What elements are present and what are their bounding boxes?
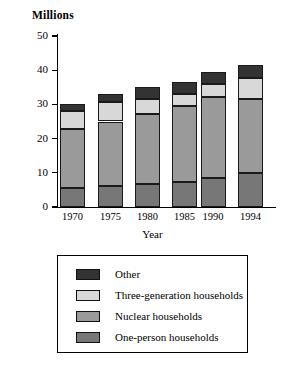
bar-segment-nuclear-households — [201, 97, 226, 178]
legend-swatch — [76, 332, 100, 343]
y-axis-tick — [52, 206, 58, 207]
bar-segment-one-person-households — [135, 184, 160, 207]
bar-1985 — [172, 36, 197, 207]
y-axis-title: Millions — [32, 9, 74, 21]
bar-segment-nuclear-households — [238, 99, 263, 173]
legend-swatch — [76, 269, 100, 280]
legend-label: Three-generation households — [115, 289, 243, 301]
bar-1990 — [201, 36, 226, 207]
y-axis-label-wrap: 30 — [0, 98, 48, 109]
y-axis-label-wrap: 0 — [0, 201, 48, 212]
bar-segment-three-generation-households — [201, 84, 226, 97]
chart-figure: Millions 01020304050 1970197519801985199… — [0, 0, 305, 368]
bar-segment-nuclear-households — [172, 106, 197, 182]
bar-segment-three-generation-households — [172, 94, 197, 106]
y-axis-label-wrap: 50 — [0, 30, 48, 41]
y-axis-tick-label: 30 — [4, 98, 48, 109]
y-axis-tick-label: 40 — [4, 64, 48, 75]
bar-segment-one-person-households — [60, 188, 85, 207]
bar-segment-one-person-households — [201, 178, 226, 207]
legend-item-three-generation-households: Three-generation households — [76, 287, 243, 303]
bar-segment-three-generation-households — [238, 78, 263, 99]
bar-1980 — [135, 36, 160, 207]
bar-segment-one-person-households — [172, 182, 197, 207]
y-axis-tick-label: 50 — [4, 30, 48, 41]
bar-segment-other — [98, 94, 123, 102]
y-axis-tick — [52, 70, 58, 71]
bar-segment-other — [201, 72, 226, 84]
legend-item-other: Other — [76, 266, 140, 282]
y-axis-tick-label: 10 — [4, 167, 48, 178]
x-axis-title: Year — [0, 228, 305, 240]
y-axis-line — [57, 34, 58, 208]
bar-segment-nuclear-households — [135, 114, 160, 184]
legend-label: Other — [115, 268, 140, 280]
bar-segment-other — [172, 82, 197, 94]
chart-legend: OtherThree-generation householdsNuclear … — [57, 255, 248, 353]
y-axis-label-wrap: 20 — [0, 133, 48, 144]
y-axis-tick — [52, 35, 58, 36]
bar-segment-other — [60, 104, 85, 110]
chart-plot-area: Millions 01020304050 1970197519801985199… — [0, 0, 305, 248]
y-axis-tick-label: 0 — [4, 201, 48, 212]
y-axis-tick — [52, 172, 58, 173]
x-axis-tick-label-1994: 1994 — [228, 211, 274, 222]
legend-label: Nuclear households — [115, 310, 202, 322]
legend-label: One-person households — [115, 331, 219, 343]
bar-1975 — [98, 36, 123, 207]
bar-segment-one-person-households — [238, 173, 263, 207]
bar-segment-other — [238, 65, 263, 78]
bar-segment-nuclear-households — [60, 129, 85, 188]
y-axis-label-wrap: 40 — [0, 64, 48, 75]
y-axis-tick — [52, 138, 58, 139]
bar-segment-other — [135, 87, 160, 99]
bar-segment-three-generation-households — [98, 102, 123, 121]
y-axis-label-wrap: 10 — [0, 167, 48, 178]
bar-segment-one-person-households — [98, 186, 123, 207]
bar-segment-nuclear-households — [98, 122, 123, 187]
legend-swatch — [76, 311, 100, 322]
bar-1994 — [238, 36, 263, 207]
y-axis-tick — [52, 104, 58, 105]
y-axis-tick-label: 20 — [4, 133, 48, 144]
bar-segment-three-generation-households — [135, 99, 160, 114]
bar-segment-three-generation-households — [60, 111, 85, 129]
legend-item-nuclear-households: Nuclear households — [76, 308, 202, 324]
bar-1970 — [60, 36, 85, 207]
legend-item-one-person-households: One-person households — [76, 329, 219, 345]
legend-swatch — [76, 290, 100, 301]
